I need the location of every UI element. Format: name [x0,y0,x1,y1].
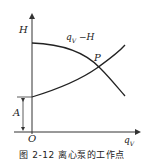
y-axis-label: H [19,25,28,35]
intersection-label: P [94,53,101,63]
x-axis-label: qV [124,136,134,147]
pump-curve-label: qV −H [66,33,94,44]
pump-curve [32,43,125,96]
static-head-label: A [13,108,20,118]
x-axis-label-sub: V [130,140,134,147]
pump-curve-label-rest: −H [76,32,94,42]
figure-caption: 图 2-12 离心泵的工作点 [0,148,144,161]
origin-label: O [28,134,36,144]
